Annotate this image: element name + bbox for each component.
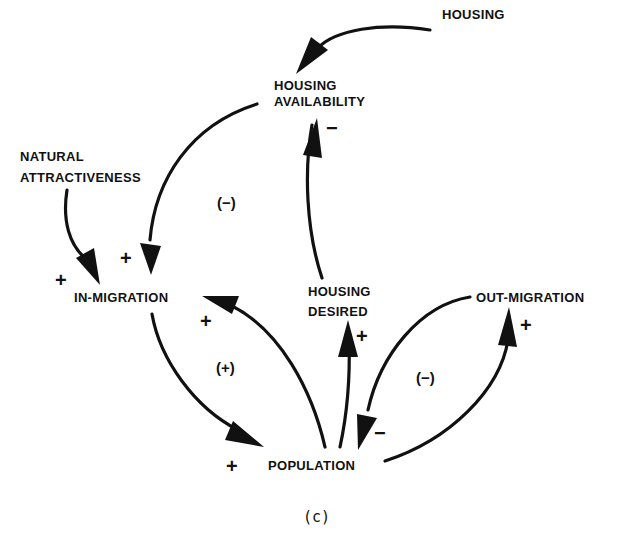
polarity-inmigration-population: +: [226, 455, 238, 477]
causal-loop-diagram: HOUSING HOUSING AVAILABILITY NATURAL ATT…: [0, 0, 630, 546]
polarity-population-desired: +: [356, 325, 368, 347]
svg-text:ATTRACTIVENESS: ATTRACTIVENESS: [20, 170, 141, 185]
polarity-population-inmigration: +: [200, 310, 212, 332]
polarity-availability-inmigration: +: [120, 247, 132, 269]
svg-text:HOUSING: HOUSING: [308, 284, 371, 299]
svg-text:AVAILABILITY: AVAILABILITY: [274, 94, 365, 109]
node-natural-attractiveness: NATURAL ATTRACTIVENESS: [20, 149, 141, 185]
svg-text:NATURAL: NATURAL: [20, 149, 84, 164]
polarity-housing-availability: +: [312, 37, 324, 59]
loop-label-negative-outmigration: (−): [416, 369, 435, 386]
diagram-svg: HOUSING HOUSING AVAILABILITY NATURAL ATT…: [0, 0, 630, 546]
edge-desired-to-availability: [303, 118, 322, 278]
polarity-desired-availability: −: [326, 117, 338, 139]
node-in-migration: IN-MIGRATION: [74, 290, 168, 305]
node-housing-availability: HOUSING AVAILABILITY: [274, 78, 365, 109]
edge-attractiveness-to-inmigration: [66, 190, 100, 285]
edge-inmigration-to-population: [152, 314, 264, 447]
polarity-outmigration-population: −: [374, 422, 386, 444]
polarity-attractiveness-inmigration: +: [55, 269, 67, 291]
loop-label-positive-population: (+): [216, 359, 235, 376]
node-housing-desired: HOUSING DESIRED: [308, 284, 371, 319]
node-housing: HOUSING: [442, 7, 505, 22]
edge-population-to-outmigration: [385, 307, 517, 461]
svg-text:DESIRED: DESIRED: [308, 304, 368, 319]
polarity-population-outmigration: +: [520, 314, 532, 336]
svg-text:HOUSING: HOUSING: [274, 78, 337, 93]
figure-caption: (c): [303, 508, 330, 526]
loop-label-negative-housing: (−): [217, 194, 236, 211]
node-population: POPULATION: [268, 458, 355, 473]
edge-population-to-desired: [338, 320, 358, 447]
edge-availability-to-inmigration: [140, 104, 257, 275]
node-out-migration: OUT-MIGRATION: [476, 290, 584, 305]
